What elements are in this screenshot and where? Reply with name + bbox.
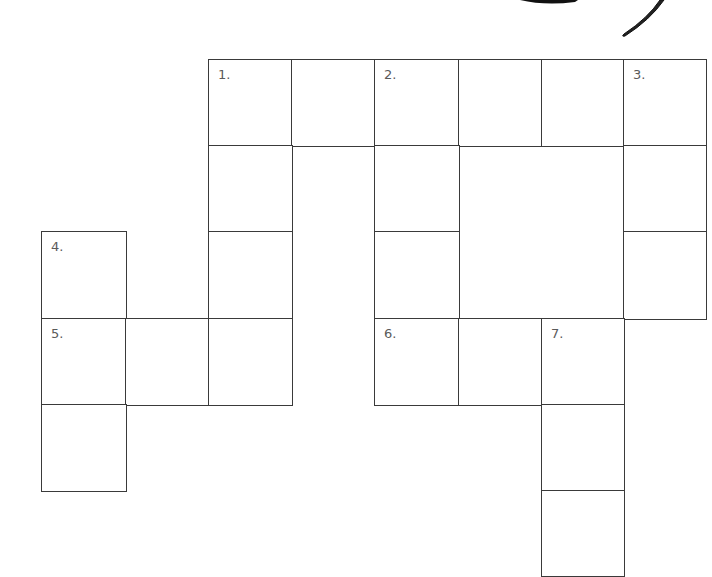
brush-stroke-decoration-icon [0, 0, 712, 60]
clue-number: 2. [384, 68, 396, 81]
clue-number: 5. [51, 327, 63, 340]
crossword-cell-1[interactable]: 1. [208, 59, 293, 147]
crossword-cell[interactable] [623, 231, 707, 320]
crossword-cell-4[interactable]: 4. [41, 231, 127, 320]
crossword-cell[interactable] [541, 490, 625, 577]
crossword-cell-2[interactable]: 2. [374, 59, 460, 147]
crossword-cell-7[interactable]: 7. [541, 318, 625, 406]
clue-number: 3. [633, 68, 645, 81]
crossword-cell[interactable] [291, 59, 376, 147]
clue-number: 7. [551, 327, 563, 340]
crossword-cell[interactable] [458, 59, 543, 147]
crossword-cell[interactable] [374, 145, 460, 233]
crossword-grid: 1.2.3.4.5.6.7. [0, 0, 712, 577]
crossword-cell[interactable] [458, 318, 543, 406]
crossword-cell-5[interactable]: 5. [41, 318, 127, 406]
clue-number: 1. [218, 68, 230, 81]
crossword-cell[interactable] [41, 404, 127, 492]
crossword-cell-6[interactable]: 6. [374, 318, 460, 406]
crossword-cell[interactable] [541, 59, 625, 147]
crossword-cell[interactable] [208, 318, 293, 406]
crossword-cell[interactable] [541, 404, 625, 492]
crossword-cell[interactable] [125, 318, 210, 406]
clue-number: 6. [384, 327, 396, 340]
crossword-cell[interactable] [623, 145, 707, 233]
crossword-cell[interactable] [374, 231, 460, 320]
clue-number: 4. [51, 240, 63, 253]
crossword-cell[interactable] [208, 231, 293, 320]
crossword-cell-3[interactable]: 3. [623, 59, 707, 147]
crossword-cell[interactable] [208, 145, 293, 233]
